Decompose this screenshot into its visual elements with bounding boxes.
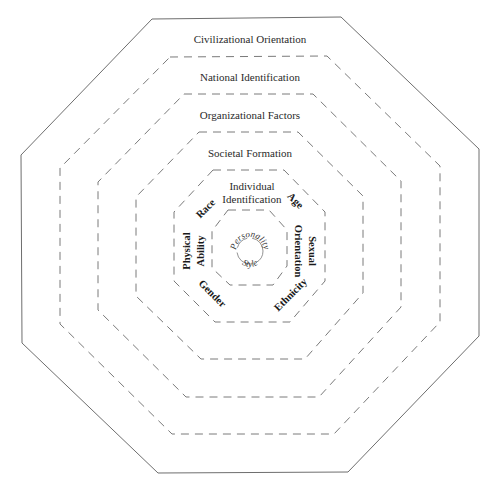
label-sexual: Sexual [307, 236, 318, 266]
label-organizational: Organizational Factors [200, 109, 300, 121]
label-societal: Societal Formation [208, 147, 293, 159]
label-race: Race [194, 197, 218, 221]
ring-civilizational [21, 17, 479, 473]
personality-arc-text: Personality [228, 229, 272, 252]
label-individual-line2: Identification [222, 193, 282, 205]
label-ability: Ability [195, 235, 206, 267]
label-civilizational: Civilizational Orientation [194, 33, 307, 45]
label-orientation: Orientation [293, 225, 304, 278]
label-individual-line1: Individual [229, 180, 274, 192]
label-gender: Gender [197, 278, 229, 310]
label-age: Age [285, 190, 305, 210]
label-physical: Physical [181, 232, 192, 269]
label-national: National Identification [200, 71, 300, 83]
label-personality: Personality [228, 229, 272, 252]
label-style: Style [241, 257, 259, 269]
ring-organizational [98, 94, 401, 397]
style-arc-text: Style [241, 257, 259, 269]
ring-core [212, 210, 287, 285]
label-ethnicity: Ethnicity [272, 275, 310, 313]
ring-societal [136, 132, 363, 359]
identity-layers-diagram: Civilizational Orientation National Iden… [0, 0, 496, 491]
